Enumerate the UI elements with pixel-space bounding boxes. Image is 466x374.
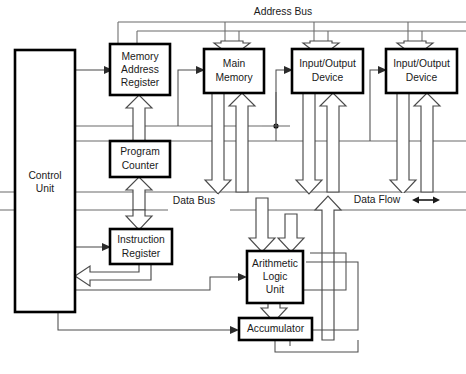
io-device-2-label-2: Device (406, 72, 438, 83)
mar-label-1: Memory (121, 51, 159, 62)
block-instruction-register[interactable]: Instruction Register (110, 229, 172, 264)
instruction-register-label-1: Instruction (117, 234, 165, 245)
program-counter-label-2: Counter (122, 160, 159, 171)
data-flow-label: Data Flow (354, 194, 401, 205)
mar-label-2: Address (121, 64, 159, 75)
block-io-device-2[interactable]: Input/Output Device (386, 49, 457, 93)
alu-label-3: Unit (266, 284, 284, 295)
mar-label-3: Register (121, 77, 160, 88)
bus-label-address-bus: Address Bus (250, 5, 316, 18)
block-memory-address-register[interactable]: Memory Address Register (110, 44, 170, 95)
alu-label-1: Arithmetic (252, 258, 298, 269)
accumulator-label: Accumulator (247, 323, 305, 334)
address-bus-label: Address Bus (254, 6, 312, 17)
instruction-register-label-2: Register (122, 248, 161, 259)
main-memory-label-2: Memory (215, 72, 253, 83)
block-program-counter[interactable]: Program Counter (110, 141, 170, 177)
block-io-device-1[interactable]: Input/Output Device (292, 49, 363, 93)
diagram-canvas: Control Unit Memory Address Register Mai… (0, 0, 466, 374)
io-device-1-label-2: Device (312, 72, 344, 83)
data-flow-double-arrow-icon (410, 194, 442, 206)
io-device-1-label-1: Input/Output (299, 58, 356, 69)
control-unit-label-1: Control (28, 170, 61, 181)
program-counter-label-1: Program (120, 146, 159, 157)
bus-label-data-bus: Data Bus (170, 194, 218, 207)
control-unit-label-2: Unit (36, 183, 54, 194)
io-device-2-label-1: Input/Output (393, 58, 450, 69)
architecture-diagram: Control Unit Memory Address Register Mai… (0, 0, 466, 374)
block-control-unit[interactable]: Control Unit (15, 50, 75, 312)
bus-label-data-flow: Data Flow (348, 193, 442, 206)
main-memory-label-1: Main (223, 58, 246, 69)
block-accumulator[interactable]: Accumulator (239, 318, 312, 340)
block-arithmetic-logic-unit[interactable]: Arithmetic Logic Unit (247, 251, 303, 303)
alu-label-2: Logic (263, 271, 288, 282)
block-main-memory[interactable]: Main Memory (204, 49, 264, 93)
data-bus-label: Data Bus (173, 195, 215, 206)
